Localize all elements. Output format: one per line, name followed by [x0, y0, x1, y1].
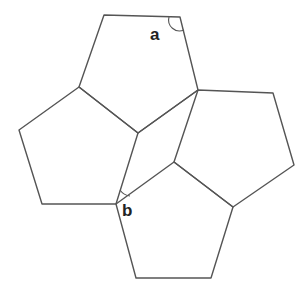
angle-label-b: b: [122, 202, 132, 219]
connector-edge: [138, 90, 198, 133]
pentagon-left: [19, 87, 138, 204]
pentagon-diagram: [0, 0, 306, 295]
pentagon-top: [79, 15, 198, 133]
pentagon-bottom: [116, 162, 233, 278]
pentagon-right: [174, 90, 294, 207]
angle-label-a: a: [150, 26, 159, 43]
